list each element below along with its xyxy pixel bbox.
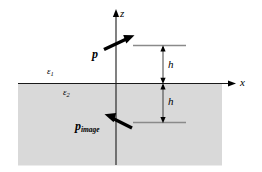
- image-dipole-subscript: image: [81, 125, 100, 134]
- upper-medium-label: ε1: [47, 67, 54, 77]
- lower-medium-label: ε2: [63, 88, 70, 98]
- lower-medium-region: [18, 84, 222, 166]
- source-dipole-arrow: [104, 35, 135, 50]
- image-dipole-label: pimage: [75, 120, 100, 134]
- dipole-image-diagram: z x ε1 ε2 p pimage h h: [0, 0, 262, 172]
- diagram-canvas: [0, 0, 262, 172]
- z-axis-label: z: [120, 8, 124, 19]
- source-dipole-label: p: [92, 48, 98, 60]
- x-axis-label: x: [240, 77, 245, 88]
- source-dipole-symbol: p: [92, 47, 98, 61]
- lower-height-label: h: [168, 96, 174, 107]
- z-axis-arrowhead: [113, 9, 119, 17]
- x-axis-arrowhead: [228, 80, 236, 86]
- lower-medium-subscript: 2: [67, 91, 70, 98]
- upper-medium-subscript: 1: [51, 70, 54, 77]
- upper-height-label: h: [168, 59, 174, 70]
